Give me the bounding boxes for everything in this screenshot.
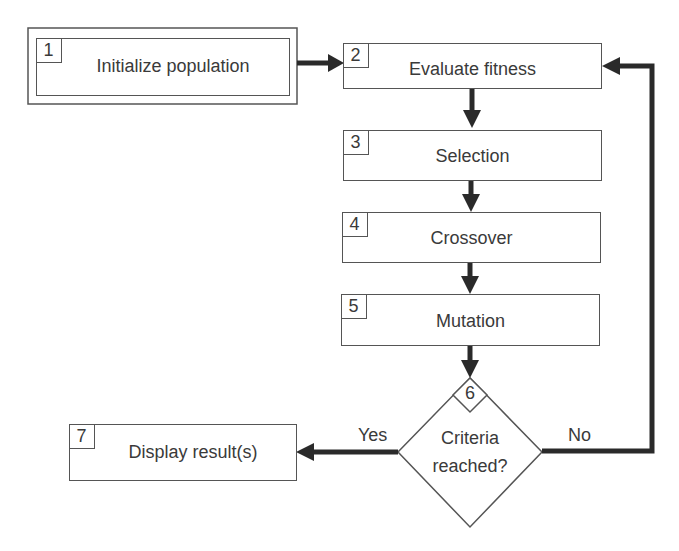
step-3-selection: 3 Selection	[343, 130, 602, 181]
step-5-mutation: 5 Mutation	[341, 294, 600, 346]
step-5-label: Mutation	[342, 311, 599, 332]
step-3-label: Selection	[344, 146, 601, 167]
step-6-label-line2: reached?	[420, 454, 520, 479]
edge-label-yes: Yes	[358, 425, 387, 446]
step-1-label: Initialize population	[37, 56, 289, 77]
step-4-label: Crossover	[343, 228, 600, 249]
edge-label-no: No	[568, 425, 591, 446]
step-1-initialize-population: 1 Initialize population	[36, 38, 290, 96]
arrow-4-to-5	[461, 263, 479, 294]
step-4-crossover: 4 Crossover	[342, 212, 601, 263]
arrow-3-to-4	[462, 180, 480, 212]
step-7-label: Display result(s)	[70, 442, 296, 463]
step-2-evaluate-fitness: 2 Evaluate fitness	[343, 43, 602, 89]
step-2-label: Evaluate fitness	[344, 59, 601, 80]
step-6-label-line1: Criteria	[420, 426, 520, 451]
step-7-display-results: 7 Display result(s)	[69, 424, 297, 481]
step-6-number: 6	[455, 381, 485, 406]
arrow-1-to-2	[297, 54, 344, 72]
arrow-2-to-3	[463, 88, 481, 128]
arrow-5-to-6	[461, 346, 479, 378]
